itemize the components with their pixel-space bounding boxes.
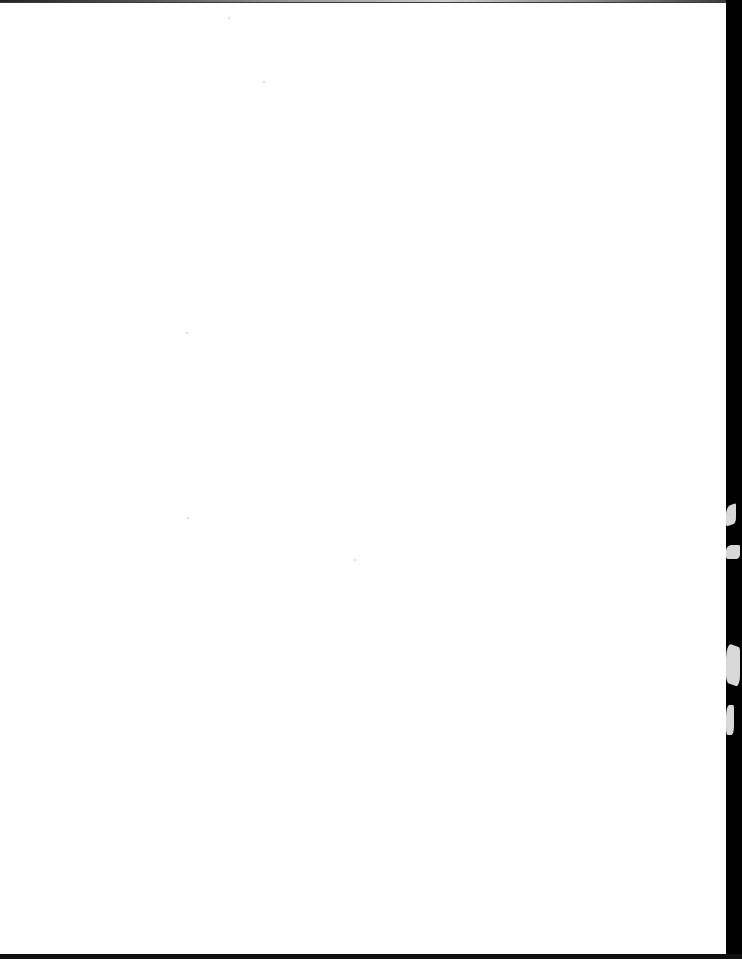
scan-bottom-edge: [0, 954, 742, 959]
dust-speck: [186, 332, 188, 334]
torn-edge-fragment: [726, 705, 734, 735]
dust-speck: [187, 517, 189, 519]
dust-speck: [263, 81, 265, 83]
scanned-page: [0, 0, 742, 959]
dust-speck: [354, 559, 356, 561]
torn-edge-fragment: [726, 642, 740, 687]
blank-paper-sheet: [0, 2, 726, 955]
torn-edge-fragment: [726, 545, 740, 559]
scan-right-border: [726, 0, 742, 959]
dust-speck: [228, 17, 230, 19]
